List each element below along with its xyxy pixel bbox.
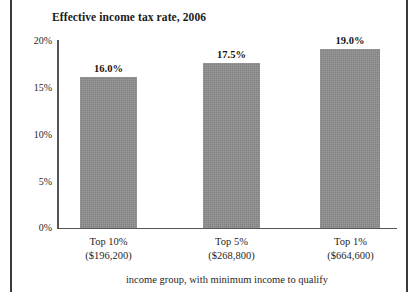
x-axis-category-sublabel: ($664,600) xyxy=(300,249,401,263)
y-axis-tick-label: 15% xyxy=(18,83,52,93)
bar-value-label: 19.0% xyxy=(320,35,380,46)
bar-value-label: 17.5% xyxy=(203,49,260,60)
y-axis-line xyxy=(57,40,59,229)
page-edge-rule-right xyxy=(406,0,408,292)
bar[interactable] xyxy=(80,77,137,228)
x-axis-category-label: Top 10% ($196,200) xyxy=(58,235,159,263)
bar[interactable] xyxy=(320,49,380,228)
y-axis-tick-label: 0% xyxy=(18,223,52,233)
x-axis-category-name: Top 1% xyxy=(334,236,367,247)
x-axis-category-name: Top 5% xyxy=(215,236,248,247)
chart-figure: Effective income tax rate, 2006 20% 15% … xyxy=(0,0,420,292)
x-axis-title: income group, with minimum income to qua… xyxy=(57,274,397,285)
x-axis-category-label: Top 5% ($268,800) xyxy=(181,235,282,263)
x-axis-category-name: Top 10% xyxy=(89,236,127,247)
y-axis-tick-label: 20% xyxy=(18,36,52,46)
bar[interactable] xyxy=(203,63,260,228)
x-axis-category-label: Top 1% ($664,600) xyxy=(300,235,401,263)
bar-value-label: 16.0% xyxy=(80,63,137,74)
y-axis-tick-label: 5% xyxy=(18,177,52,187)
x-axis-category-sublabel: ($196,200) xyxy=(58,249,159,263)
page-edge-rule-left xyxy=(10,0,12,292)
chart-title: Effective income tax rate, 2006 xyxy=(52,11,206,23)
x-axis-category-sublabel: ($268,800) xyxy=(181,249,282,263)
y-axis-tick-label: 10% xyxy=(18,130,52,140)
